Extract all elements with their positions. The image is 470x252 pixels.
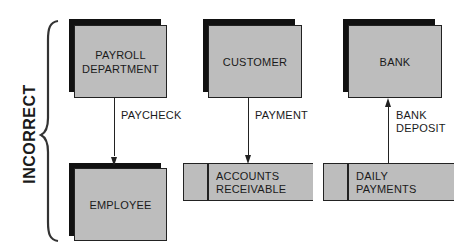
- datastore-label: RECEIVABLE: [216, 183, 286, 195]
- datastore-label: ACCOUNTS: [216, 170, 279, 182]
- arrow-down-icon: [111, 157, 117, 166]
- flow-line-bank-deposit: [388, 106, 389, 163]
- entity-bank: BANK: [348, 25, 442, 98]
- flow-line-paycheck: [114, 98, 115, 156]
- entity-employee: EMPLOYEE: [74, 168, 167, 241]
- incorrect-label: INCORRECT: [21, 84, 39, 184]
- curly-brace-icon: [38, 18, 62, 244]
- datastore-divider: [207, 164, 209, 200]
- entity-label: DEPARTMENT: [82, 63, 159, 75]
- entity-label: CUSTOMER: [223, 55, 287, 69]
- entity-customer: CUSTOMER: [208, 25, 302, 98]
- entity-payroll-department: PAYROLL DEPARTMENT: [74, 25, 167, 98]
- entity-label: BANK: [380, 55, 411, 69]
- datastore-accounts-receivable: ACCOUNTS RECEIVABLE: [183, 163, 313, 201]
- arrow-down-icon: [245, 155, 251, 164]
- flow-line-payment: [248, 98, 249, 156]
- datastore-label: DAILY: [356, 170, 388, 182]
- datastore-divider: [347, 164, 349, 200]
- datastore-daily-payments: DAILY PAYMENTS: [323, 163, 454, 201]
- flow-label-bank-deposit: BANK DEPOSIT: [396, 109, 446, 135]
- entity-label: EMPLOYEE: [89, 198, 151, 212]
- flow-label-paycheck: PAYCHECK: [121, 109, 181, 122]
- datastore-label: PAYMENTS: [356, 183, 416, 195]
- flow-label-payment: PAYMENT: [255, 109, 308, 122]
- entity-label: PAYROLL: [95, 49, 146, 61]
